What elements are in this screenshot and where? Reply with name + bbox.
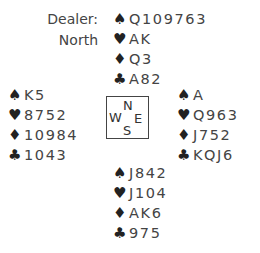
diamond-icon: ♦	[113, 49, 129, 69]
east-diamonds: ♦J752	[177, 125, 239, 145]
west-hearts: ♥8752	[8, 105, 78, 125]
south-clubs: ♣975	[113, 223, 167, 243]
club-icon: ♣	[177, 145, 193, 165]
east-clubs: ♣KQJ6	[177, 145, 239, 165]
south-diamonds: ♦AK6	[113, 203, 167, 223]
north-spades: ♠Q109763	[113, 9, 207, 29]
compass-box: N W E S	[106, 96, 149, 139]
compass-west: W	[109, 111, 122, 124]
hand-west: ♠K5 ♥8752 ♦10984 ♣1043	[8, 85, 78, 165]
dealer-value: North	[24, 30, 98, 51]
spade-icon: ♠	[113, 9, 129, 29]
club-icon: ♣	[113, 69, 129, 89]
spade-icon: ♠	[113, 163, 129, 183]
diamond-icon: ♦	[8, 125, 24, 145]
west-diamonds: ♦10984	[8, 125, 78, 145]
dealer-label: Dealer:	[24, 9, 98, 30]
north-diamonds: ♦Q3	[113, 49, 207, 69]
hand-north: ♠Q109763 ♥AK ♦Q3 ♣A82	[113, 9, 207, 89]
spade-icon: ♠	[8, 85, 24, 105]
east-hearts: ♥Q963	[177, 105, 239, 125]
compass-south: S	[123, 124, 131, 137]
spade-icon: ♠	[177, 85, 193, 105]
hand-east: ♠A ♥Q963 ♦J752 ♣KQJ6	[177, 85, 239, 165]
compass-east: E	[134, 112, 142, 125]
diamond-icon: ♦	[113, 203, 129, 223]
heart-icon: ♥	[113, 29, 129, 49]
diamond-icon: ♦	[177, 125, 193, 145]
club-icon: ♣	[8, 145, 24, 165]
hand-south: ♠J842 ♥J104 ♦AK6 ♣975	[113, 163, 167, 243]
heart-icon: ♥	[113, 183, 129, 203]
heart-icon: ♥	[177, 105, 193, 125]
heart-icon: ♥	[8, 105, 24, 125]
south-hearts: ♥J104	[113, 183, 167, 203]
compass-north: N	[123, 99, 133, 112]
west-spades: ♠K5	[8, 85, 78, 105]
north-hearts: ♥AK	[113, 29, 207, 49]
dealer-info: Dealer: North	[24, 9, 98, 51]
south-spades: ♠J842	[113, 163, 167, 183]
club-icon: ♣	[113, 223, 129, 243]
west-clubs: ♣1043	[8, 145, 78, 165]
east-spades: ♠A	[177, 85, 239, 105]
